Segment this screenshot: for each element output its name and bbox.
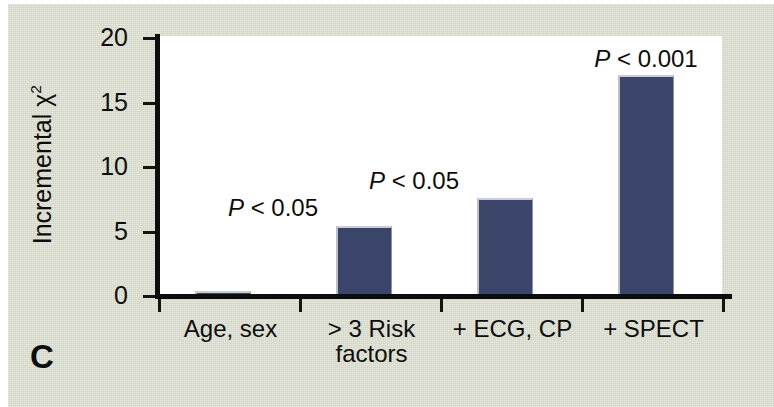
pvalue-risk-factors: P < 0.05: [193, 196, 353, 220]
y-axis-line: [155, 34, 160, 298]
pvalue-symbol: P: [369, 167, 385, 194]
plot-area: P < 0.05 P < 0.05 P < 0.001: [160, 36, 722, 296]
x-axis-label-line: + SPECT: [583, 316, 724, 341]
y-tick-label-20: 20: [86, 25, 128, 50]
x-tick-mark-2: [440, 299, 443, 312]
figure-panel-c: Incremental χ2 20 15 10 5 0 P < 0: [0, 0, 774, 407]
y-tick-label-0: 0: [86, 283, 128, 308]
x-axis-label-age-sex: Age, sex: [160, 316, 301, 341]
pvalue-symbol: P: [228, 194, 244, 221]
pvalue-symbol: P: [594, 45, 610, 72]
x-tick-mark-1: [299, 299, 302, 312]
pvalue-ecg-cp: P < 0.05: [334, 169, 494, 193]
pvalue-text: < 0.05: [385, 167, 459, 194]
bar-ecg-cp[interactable]: [477, 198, 533, 296]
y-tick-label-10: 10: [86, 154, 128, 179]
y-tick-label-15: 15: [86, 90, 128, 115]
y-tick-label-5: 5: [86, 219, 128, 244]
x-axis-label-spect: + SPECT: [583, 316, 724, 341]
x-axis-label-risk-factors: > 3 Risk factors: [301, 316, 442, 367]
x-axis-label-ecg-cp: + ECG, CP: [442, 316, 583, 341]
x-axis-line: [155, 294, 732, 299]
panel-label: C: [30, 340, 54, 373]
x-axis-label-line: Age, sex: [160, 316, 301, 341]
pvalue-spect: P < 0.001: [566, 47, 726, 71]
pvalue-text: < 0.001: [610, 45, 697, 72]
x-tick-mark-3: [581, 299, 584, 312]
x-tick-mark-4: [722, 299, 725, 312]
bar-risk-factors[interactable]: [336, 226, 392, 296]
x-axis-label-line: + ECG, CP: [442, 316, 583, 341]
y-axis-ticks: 20 15 10 5 0: [0, 0, 160, 407]
x-axis-label-line: factors: [301, 341, 442, 366]
pvalue-text: < 0.05: [244, 194, 318, 221]
x-tick-mark-0: [158, 299, 161, 312]
x-axis-label-line: > 3 Risk: [301, 316, 442, 341]
bar-spect[interactable]: [618, 75, 674, 296]
